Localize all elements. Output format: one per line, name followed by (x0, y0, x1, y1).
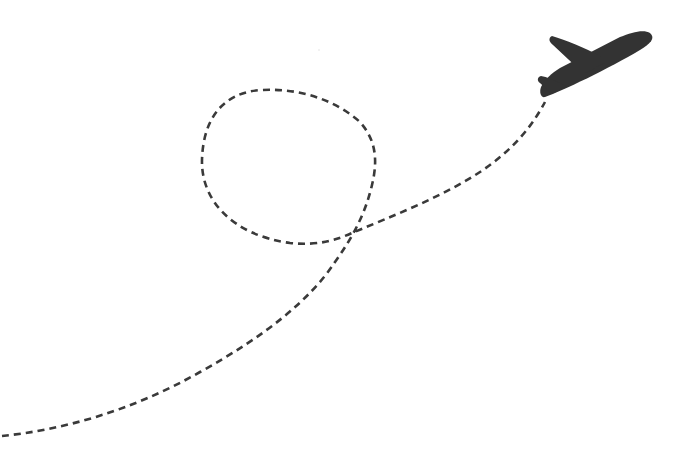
illustration-canvas (0, 0, 696, 458)
background-speck (318, 49, 320, 51)
airplane-icon (538, 31, 653, 97)
dashed-flight-path (2, 90, 545, 436)
